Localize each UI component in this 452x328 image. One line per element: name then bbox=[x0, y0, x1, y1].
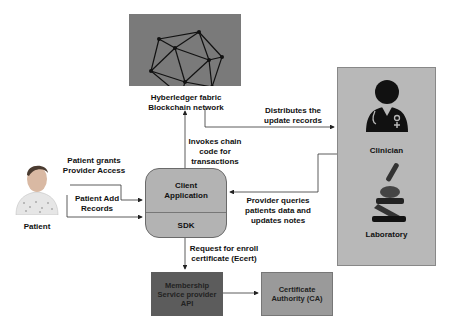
request-ecert-label: Request for enroll certificate (Ecert) bbox=[188, 244, 260, 264]
blockchain-label-line1: Hyberledger fabric bbox=[140, 93, 232, 103]
provider-queries-label: Provider queries patients data and updat… bbox=[238, 196, 318, 226]
blockchain-label: Hyberledger fabric Blockchain network bbox=[140, 93, 232, 113]
network-polyhedron-icon bbox=[129, 14, 241, 86]
add-line2: Records bbox=[72, 204, 122, 214]
patient-label: Patient bbox=[12, 222, 62, 232]
blockchain-network-image bbox=[129, 14, 241, 86]
microscope-icon bbox=[370, 160, 410, 224]
patient-add-label: Patient Add Records bbox=[72, 194, 122, 214]
request-line2: certificate (Ecert) bbox=[188, 254, 260, 264]
patient-grants-label: Patient grants Provider Access bbox=[62, 156, 126, 176]
certificate-authority-node[interactable]: Certificate Authority (CA) bbox=[261, 272, 333, 316]
client-label-line2: Application bbox=[164, 191, 208, 201]
client-label-line1: Client bbox=[164, 181, 208, 191]
clinician-label: Clinician bbox=[338, 146, 435, 156]
invokes-line1: Invokes chain bbox=[186, 137, 244, 147]
msp-line1: Membership bbox=[158, 281, 217, 290]
providers-panel: Clinician Laboratory bbox=[337, 67, 436, 266]
msp-line2: Service provider bbox=[158, 290, 217, 299]
msp-line3: API bbox=[158, 299, 217, 308]
grants-line1: Patient grants bbox=[62, 156, 126, 166]
client-application-label: Client Application bbox=[146, 169, 226, 213]
membership-service-provider-node[interactable]: Membership Service provider API bbox=[151, 272, 223, 316]
client-application-node[interactable]: Client Application SDK bbox=[145, 168, 227, 238]
blockchain-label-line2: Blockchain network bbox=[140, 103, 232, 113]
sdk-section: SDK bbox=[146, 213, 226, 238]
doctor-icon bbox=[364, 78, 410, 132]
distributes-label: Distributes the update records bbox=[258, 106, 328, 126]
queries-line2: patients data and bbox=[238, 206, 318, 216]
request-line1: Request for enroll bbox=[188, 244, 260, 254]
distributes-line1: Distributes the bbox=[258, 106, 328, 116]
queries-line3: updates notes bbox=[238, 216, 318, 226]
grants-line2: Provider Access bbox=[62, 166, 126, 176]
distributes-line2: update records bbox=[258, 116, 328, 126]
invokes-line2: code for bbox=[186, 147, 244, 157]
add-line1: Patient Add bbox=[72, 194, 122, 204]
invokes-line3: transactions bbox=[186, 157, 244, 167]
ca-line2: Authority (CA) bbox=[271, 294, 322, 303]
invokes-label: Invokes chain code for transactions bbox=[186, 137, 244, 167]
patient-icon bbox=[12, 155, 62, 215]
laboratory-label: Laboratory bbox=[338, 230, 435, 240]
queries-line1: Provider queries bbox=[238, 196, 318, 206]
ca-line1: Certificate bbox=[271, 285, 322, 294]
